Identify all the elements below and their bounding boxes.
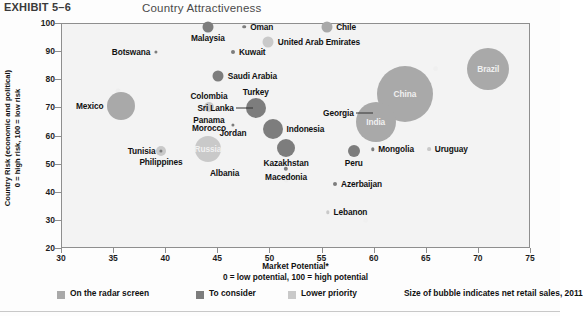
bubble-label-colombia: Colombia <box>190 91 227 101</box>
bubble-label-turkey: Turkey <box>243 87 269 97</box>
legend-swatch-icon-1 <box>196 291 204 299</box>
plot-background-texture <box>62 24 529 247</box>
y-tick-label-80: 80 <box>31 74 55 84</box>
bubble-saudi-arabia[interactable] <box>213 71 224 82</box>
legend-swatch-icon-2 <box>288 291 296 299</box>
bubble-label-united-arab-emirates: United Arab Emirates <box>278 37 360 47</box>
bubble-mongolia[interactable] <box>371 147 374 150</box>
bubble-mexico[interactable] <box>107 92 135 120</box>
bubble-label-malaysia: Malaysia <box>191 33 225 43</box>
legend-item-lower-priority[interactable]: Lower priority <box>288 288 357 298</box>
plot-area: ChinaBrazilIndiaMexicoRussiaTurkeyIndone… <box>61 23 530 248</box>
x-tick-mark-50 <box>269 248 270 253</box>
leader-line-georgia <box>356 112 373 113</box>
bubble-peru[interactable] <box>348 145 360 157</box>
bubble-label-sri-lanka: Sri Lanka <box>197 103 233 113</box>
leader-line-sri-lanka <box>236 108 253 109</box>
x-tick-mark-65 <box>426 248 427 253</box>
bubble-jordan[interactable] <box>231 124 234 127</box>
bubble-label-kazakhstan: Kazakhstan <box>264 158 309 168</box>
bubble-label-uruguay: Uruguay <box>435 144 468 154</box>
bubble-label-mexico: Mexico <box>76 101 104 111</box>
y-tick-label-100: 100 <box>31 18 55 28</box>
bubble-label-brazil: Brazil <box>477 64 499 74</box>
x-tick-mark-75 <box>530 248 531 253</box>
bubble-label-india: India <box>366 117 385 127</box>
bubble-indonesia[interactable] <box>263 119 283 139</box>
bubble-label-morocco: Morocco <box>192 123 226 133</box>
legend: On the radar screen To consider Lower pr… <box>0 286 560 310</box>
y-axis-title-line2: 0 = high risk, 100 = low risk <box>13 69 23 205</box>
bubble-oman[interactable] <box>243 25 247 29</box>
bubble-label-albania: Albania <box>210 168 239 178</box>
bubble-label-lebanon: Lebanon <box>333 207 367 217</box>
x-tick-mark-35 <box>113 248 114 253</box>
bubble-label-philippines: Philippines <box>139 157 182 167</box>
bubble-label-peru: Peru <box>345 158 363 168</box>
y-axis-title: Country Risk (economic and political) 0 … <box>2 30 24 245</box>
bubble-uruguay[interactable] <box>427 147 431 151</box>
bubble-botswana[interactable] <box>154 51 157 54</box>
bubble-azerbaijan[interactable] <box>333 182 337 186</box>
x-tick-mark-55 <box>322 248 323 253</box>
bubble-kazakhstan[interactable] <box>277 139 295 157</box>
legend-note: Size of bubble indicates net retail sale… <box>404 288 583 298</box>
bubble-label-botswana: Botswana <box>112 47 150 57</box>
y-tick-label-40: 40 <box>31 187 55 197</box>
bubble-lebanon[interactable] <box>326 211 329 214</box>
x-axis-title-line1: Market Potential* <box>61 262 530 273</box>
bubble-label-saudi-arabia: Saudi Arabia <box>228 71 277 81</box>
bubble-united-arab-emirates[interactable] <box>263 37 274 48</box>
legend-item-on-the-radar-screen[interactable]: On the radar screen <box>57 288 149 298</box>
y-tick-label-70: 70 <box>31 102 55 112</box>
x-tick-mark-30 <box>61 248 62 253</box>
bubble-label-georgia: Georgia <box>323 108 354 118</box>
y-axis-title-line1: Country Risk (economic and political) <box>3 69 13 205</box>
chart-title: Country Attractiveness <box>142 2 261 14</box>
y-tick-label-50: 50 <box>31 159 55 169</box>
legend-swatch-icon-0 <box>57 291 65 299</box>
legend-label-0: On the radar screen <box>70 288 149 298</box>
x-tick-mark-70 <box>478 248 479 253</box>
y-tick-label-20: 20 <box>31 243 55 253</box>
x-axis-title: Market Potential* 0 = low potential, 100… <box>61 262 530 283</box>
legend-label-2: Lower priority <box>301 288 357 298</box>
y-tick-label-60: 60 <box>31 131 55 141</box>
bubble-chile[interactable] <box>321 21 332 32</box>
bubble-label-indonesia: Indonesia <box>287 124 325 134</box>
bubble-label-chile: Chile <box>336 22 356 32</box>
bubble-label-russia: Russia <box>195 144 222 154</box>
bubble-label-tunisia: Tunisia <box>128 146 156 156</box>
x-tick-mark-45 <box>217 248 218 253</box>
legend-label-1: To consider <box>209 288 256 298</box>
bubble-label-kuwait: Kuwait <box>239 47 266 57</box>
y-tick-label-30: 30 <box>31 215 55 225</box>
bottom-divider <box>0 311 560 312</box>
bubble-label-oman: Oman <box>250 22 273 32</box>
legend-item-to-consider[interactable]: To consider <box>196 288 256 298</box>
y-tick-label-90: 90 <box>31 46 55 56</box>
exhibit-label: EXHIBIT 5–6 <box>4 1 71 13</box>
x-tick-mark-40 <box>165 248 166 253</box>
bubble-label-azerbaijan: Azerbaijan <box>341 179 382 189</box>
x-axis-title-line2: 0 = low potential, 100 = high potential <box>61 273 530 284</box>
bubble-label-mongolia: Mongolia <box>378 144 414 154</box>
x-tick-mark-60 <box>374 248 375 253</box>
bubble-label-china: China <box>394 89 417 99</box>
bubble-malaysia[interactable] <box>202 21 213 32</box>
bubble-kuwait[interactable] <box>231 50 235 54</box>
bubble-label-macedonia: Macedonia <box>265 172 307 182</box>
